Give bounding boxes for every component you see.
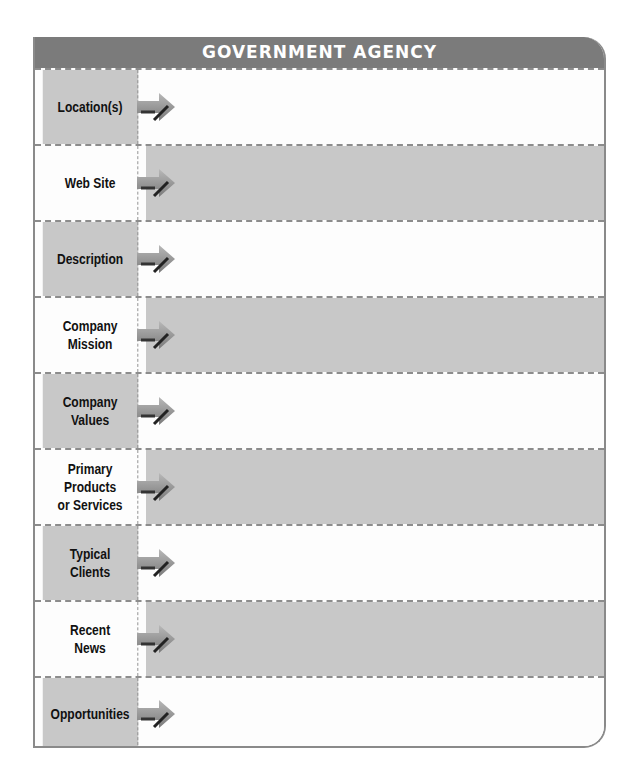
- row-locations: Location(s): [35, 68, 604, 144]
- row-opportunities: Opportunities: [35, 676, 604, 748]
- row-label: Company Values: [43, 374, 138, 448]
- government-agency-worksheet: GOVERNMENT AGENCY Location(s) Web Site D…: [33, 37, 606, 748]
- company-values-field[interactable]: [146, 374, 604, 448]
- row-label: Recent News: [43, 602, 138, 676]
- typical-clients-field[interactable]: [146, 526, 604, 600]
- arrow-right-icon: [135, 622, 177, 656]
- row-company-values: Company Values: [35, 372, 604, 448]
- opportunities-field[interactable]: [146, 678, 604, 748]
- arrow-right-icon: [135, 90, 177, 124]
- row-web-site: Web Site: [35, 144, 604, 220]
- recent-news-field[interactable]: [146, 602, 604, 676]
- arrow-right-icon: [135, 394, 177, 428]
- locations-field[interactable]: [146, 70, 604, 144]
- row-label: Primary Products or Services: [43, 450, 138, 524]
- arrow-right-icon: [135, 697, 177, 731]
- arrow-right-icon: [135, 546, 177, 580]
- row-primary-products: Primary Products or Services: [35, 448, 604, 524]
- arrow-right-icon: [135, 242, 177, 276]
- web-site-field[interactable]: [146, 146, 604, 220]
- row-label: Web Site: [43, 146, 138, 220]
- row-label: Description: [43, 222, 138, 296]
- row-recent-news: Recent News: [35, 600, 604, 676]
- description-field[interactable]: [146, 222, 604, 296]
- row-label: Company Mission: [43, 298, 138, 372]
- primary-products-field[interactable]: [146, 450, 604, 524]
- company-mission-field[interactable]: [146, 298, 604, 372]
- arrow-right-icon: [135, 470, 177, 504]
- arrow-right-icon: [135, 318, 177, 352]
- row-label: Opportunities: [43, 678, 138, 748]
- row-company-mission: Company Mission: [35, 296, 604, 372]
- arrow-right-icon: [135, 166, 177, 200]
- row-typical-clients: Typical Clients: [35, 524, 604, 600]
- row-label: Location(s): [43, 70, 138, 144]
- row-label: Typical Clients: [43, 526, 138, 600]
- worksheet-title: GOVERNMENT AGENCY: [35, 37, 604, 68]
- row-description: Description: [35, 220, 604, 296]
